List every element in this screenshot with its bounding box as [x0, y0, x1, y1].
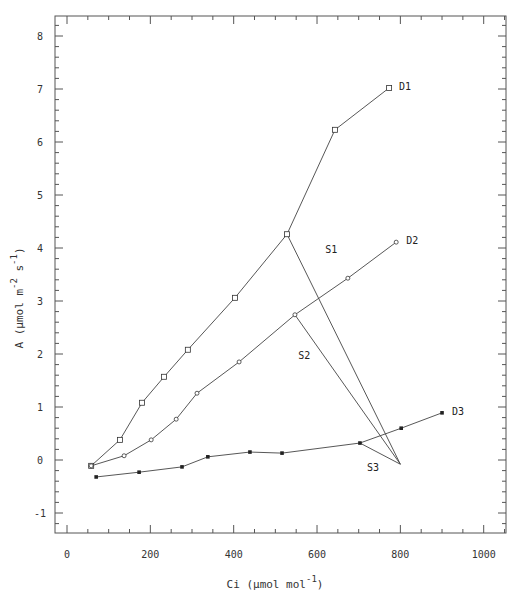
y-tick-label: 1: [37, 402, 43, 413]
x-tick-label: 800: [391, 549, 409, 560]
data-point: [137, 470, 141, 474]
annotations: S1S2S3: [298, 244, 379, 472]
series-d3: D3: [94, 406, 464, 479]
supply-line-s2: [295, 315, 400, 464]
series-label-d2: D2: [406, 235, 418, 246]
supply-line-s1: [287, 234, 400, 464]
data-point: [174, 417, 178, 421]
data-point: [89, 464, 93, 468]
y-axis-ticks: -1012345678: [34, 25, 506, 523]
y-tick-label: -1: [34, 508, 46, 519]
annotation-s2: S2: [298, 350, 310, 361]
series-label-d1: D1: [399, 81, 411, 92]
photosynthesis-ci-chart: 02004006008001000 -1012345678 D1D2D3 S1S…: [0, 0, 517, 601]
y-tick-label: 2: [37, 349, 43, 360]
y-tick-label: 4: [37, 243, 43, 254]
series-label-d3: D3: [452, 406, 464, 417]
x-tick-label: 400: [225, 549, 243, 560]
x-tick-label: 600: [308, 549, 326, 560]
data-point: [440, 411, 444, 415]
y-tick-label: 7: [37, 84, 43, 95]
data-point: [248, 450, 252, 454]
data-point: [117, 437, 122, 442]
annotation-s1: S1: [325, 244, 337, 255]
x-tick-label: 0: [64, 549, 70, 560]
data-point: [280, 451, 284, 455]
data-point: [185, 347, 190, 352]
series-d2: D2: [89, 235, 418, 468]
data-point: [332, 127, 337, 132]
data-point: [346, 276, 350, 280]
supply-line-s3: [360, 443, 400, 464]
data-point: [122, 454, 126, 458]
x-tick-label: 1000: [472, 549, 496, 560]
data-point: [387, 85, 392, 90]
y-tick-label: 5: [37, 190, 43, 201]
data-point: [232, 295, 237, 300]
data-point: [162, 374, 167, 379]
y-axis-title: A (µmol m-2 s-1): [9, 247, 26, 348]
data-point: [237, 360, 241, 364]
x-axis-ticks: 02004006008001000: [64, 16, 505, 560]
data-point: [293, 313, 297, 317]
data-point: [358, 441, 362, 445]
data-point: [399, 426, 403, 430]
x-tick-label: 200: [141, 549, 159, 560]
supply-lines: [287, 234, 400, 464]
data-point: [94, 475, 98, 479]
data-point: [149, 438, 153, 442]
y-tick-label: 8: [37, 31, 43, 42]
annotation-s3: S3: [367, 462, 379, 473]
x-axis-title: Ci (µmol mol-1): [227, 574, 324, 591]
y-tick-label: 0: [37, 455, 43, 466]
data-point: [285, 232, 290, 237]
data-point: [180, 465, 184, 469]
data-point: [140, 400, 145, 405]
y-tick-label: 3: [37, 296, 43, 307]
data-series: D1D2D3: [89, 81, 464, 479]
y-tick-label: 6: [37, 137, 43, 148]
data-point: [394, 240, 398, 244]
data-point: [206, 455, 210, 459]
data-point: [195, 391, 199, 395]
